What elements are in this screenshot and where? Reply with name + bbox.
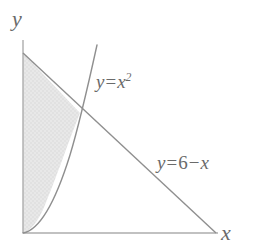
line-equals: = — [165, 152, 178, 173]
line-equation-label: y=6−x — [157, 153, 209, 172]
line-minus: − — [188, 152, 201, 173]
line-variable: x — [200, 152, 208, 173]
plot-canvas — [0, 0, 265, 252]
line-constant: 6 — [178, 152, 188, 173]
y-axis-label: y — [12, 8, 22, 30]
math-figure: y x y=x2 y=6−x — [0, 0, 265, 252]
parabola-rhs-base: x — [117, 71, 125, 92]
parabola-equation-label: y=x2 — [96, 72, 131, 91]
x-axis-label: x — [221, 222, 231, 244]
parabola-rhs-exponent: 2 — [126, 71, 132, 84]
parabola-equals: = — [104, 71, 117, 92]
